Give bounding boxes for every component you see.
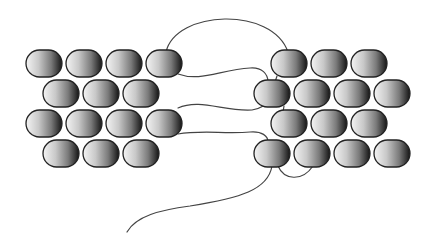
right-bead-r2-c4 [374,80,410,107]
thread-middle-crossing [178,100,268,110]
left-bead-panel [26,50,182,167]
right-bead-r3-c1 [271,110,307,137]
left-bead-r2-c3 [123,80,159,107]
right-bead-r4-c4 [374,140,410,167]
thread-upper-crossing [178,68,268,82]
right-bead-r2-c3 [334,80,370,107]
right-bead-r1-c1 [271,50,307,77]
left-bead-r2-c1 [43,80,79,107]
bead-weaving-diagram [0,0,434,247]
left-bead-r1-c3 [106,50,142,77]
right-bead-r2-c1 [254,80,290,107]
right-bead-panel [254,50,410,167]
left-bead-r4-c2 [83,140,119,167]
right-bead-r3-c3 [351,110,387,137]
thread-bottom-loop [278,166,313,177]
thread-lower-crossing [178,132,268,142]
left-bead-r1-c1 [26,50,62,77]
right-bead-r4-c2 [294,140,330,167]
thread-tail [127,166,272,232]
right-bead-r3-c2 [311,110,347,137]
left-bead-r3-c2 [66,110,102,137]
right-bead-r1-c2 [311,50,347,77]
right-bead-r2-c2 [294,80,330,107]
left-bead-r4-c3 [123,140,159,167]
left-bead-r3-c4 [146,110,182,137]
left-bead-r3-c3 [106,110,142,137]
left-bead-r1-c4 [146,50,182,77]
right-bead-r1-c3 [351,50,387,77]
left-bead-r1-c2 [66,50,102,77]
left-bead-r4-c1 [43,140,79,167]
right-bead-r4-c3 [334,140,370,167]
left-bead-r3-c1 [26,110,62,137]
left-bead-r2-c2 [83,80,119,107]
right-bead-r4-c1 [254,140,290,167]
thread-top-arch [166,19,288,52]
